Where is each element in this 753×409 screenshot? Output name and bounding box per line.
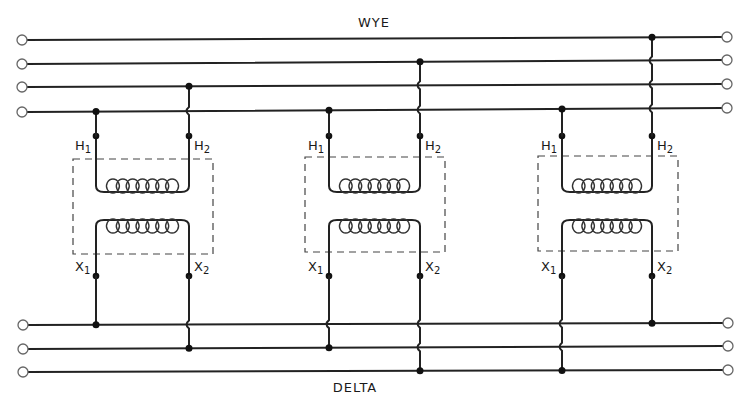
x1-label: X1 xyxy=(308,259,323,276)
h2-lead-junction-dot xyxy=(417,58,424,65)
transformer-1 xyxy=(73,83,213,352)
h2-lead xyxy=(418,62,421,136)
h2-lead-junction-dot xyxy=(186,83,193,90)
wye-line-3 xyxy=(17,79,732,92)
secondary-coil-icon xyxy=(340,219,410,233)
x1-label-letter: X xyxy=(308,259,317,274)
x1-label: X1 xyxy=(541,259,556,276)
x1-label-subscript: 1 xyxy=(550,265,556,276)
transformer-enclosure xyxy=(538,156,678,251)
secondary-winding-leads xyxy=(329,220,420,276)
x2-lead xyxy=(187,276,190,348)
x2-label: X2 xyxy=(425,259,440,276)
delta-line-2 xyxy=(18,341,733,354)
h1-label-subscript: 1 xyxy=(85,144,91,155)
transformer-2 xyxy=(305,58,445,374)
transformer-enclosure xyxy=(305,157,445,252)
h1-label-subscript: 1 xyxy=(318,144,324,155)
transformer-enclosure xyxy=(73,159,213,254)
h2-label-subscript: 2 xyxy=(667,144,673,155)
primary-winding-leads xyxy=(96,136,189,192)
wye-line-2 xyxy=(17,55,732,69)
primary-coil-icon xyxy=(573,179,642,193)
x1-label: X1 xyxy=(75,259,90,276)
primary-winding-leads xyxy=(329,136,420,192)
wye-delta-transformer-diagram xyxy=(0,0,753,409)
wye-conductor xyxy=(27,37,722,40)
delta-terminal-right[interactable] xyxy=(723,365,733,375)
h2-label-letter: H xyxy=(657,138,667,153)
primary-coil-icon xyxy=(107,179,179,193)
wye-terminal-right[interactable] xyxy=(722,32,732,42)
h2-lead xyxy=(650,37,653,136)
h1-label-letter: H xyxy=(75,138,85,153)
h1-label: H1 xyxy=(308,138,324,155)
x1-lead xyxy=(327,276,330,348)
h1-label-subscript: 1 xyxy=(551,144,557,155)
h2-label: H2 xyxy=(657,138,673,155)
delta-line-3 xyxy=(18,365,733,377)
delta-terminal-right[interactable] xyxy=(723,341,733,351)
h1-label-letter: H xyxy=(541,138,551,153)
x2-label-letter: X xyxy=(657,259,666,274)
secondary-winding-leads xyxy=(96,220,189,276)
wye-conductor xyxy=(27,84,722,87)
delta-terminal-left[interactable] xyxy=(18,367,28,377)
delta-conductor xyxy=(28,346,723,349)
h1-label: H1 xyxy=(75,138,91,155)
secondary-coil-icon xyxy=(573,219,642,233)
x2-label-subscript: 2 xyxy=(203,265,209,276)
x1-label-subscript: 1 xyxy=(317,265,323,276)
secondary-winding-leads xyxy=(562,220,652,276)
x2-label: X2 xyxy=(194,259,209,276)
x1-label-letter: X xyxy=(541,259,550,274)
h1-lead-junction-dot xyxy=(559,105,566,112)
x2-lead-junction-dot xyxy=(417,367,424,374)
h2-label: H2 xyxy=(194,138,210,155)
x2-label-letter: X xyxy=(425,259,434,274)
delta-bus xyxy=(18,318,733,377)
wye-terminal-right[interactable] xyxy=(722,55,732,65)
wye-terminal-left[interactable] xyxy=(17,107,27,117)
wye-terminal-right[interactable] xyxy=(722,79,732,89)
delta-line-1 xyxy=(18,318,733,330)
x2-label-subscript: 2 xyxy=(666,265,672,276)
h1-lead-junction-dot xyxy=(93,108,100,115)
delta-terminal-right[interactable] xyxy=(723,318,733,328)
wye-bus xyxy=(17,32,732,117)
wye-terminal-left[interactable] xyxy=(17,59,27,69)
x2-label-letter: X xyxy=(194,259,203,274)
wye-line-4 xyxy=(17,103,732,117)
x1-label-subscript: 1 xyxy=(84,265,90,276)
wye-terminal-left[interactable] xyxy=(17,35,27,45)
x2-lead-junction-dot xyxy=(649,320,656,327)
x1-lead-junction-dot xyxy=(559,367,566,374)
wye-conductor xyxy=(27,60,722,64)
h1-label-letter: H xyxy=(308,138,318,153)
delta-conductor xyxy=(28,323,723,325)
delta-terminal-left[interactable] xyxy=(18,344,28,354)
delta-terminal-left[interactable] xyxy=(18,320,28,330)
delta-label: DELTA xyxy=(333,380,378,395)
wye-terminal-left[interactable] xyxy=(17,82,27,92)
wye-conductor xyxy=(27,108,722,112)
wye-terminal-right[interactable] xyxy=(722,103,732,113)
h1-lead-junction-dot xyxy=(326,107,333,114)
h2-label-subscript: 2 xyxy=(204,144,210,155)
wye-line-1 xyxy=(17,32,732,45)
secondary-coil-icon xyxy=(107,219,179,233)
wye-label: WYE xyxy=(358,15,390,30)
h2-label-letter: H xyxy=(194,138,204,153)
h2-label: H2 xyxy=(425,138,441,155)
h1-label: H1 xyxy=(541,138,557,155)
x1-label-letter: X xyxy=(75,259,84,274)
h2-label-letter: H xyxy=(425,138,435,153)
x1-lead-junction-dot xyxy=(326,344,333,351)
primary-winding-leads xyxy=(562,136,652,192)
delta-conductor xyxy=(28,370,723,372)
x2-label: X2 xyxy=(657,259,672,276)
h2-lead-junction-dot xyxy=(649,34,656,41)
x2-lead-junction-dot xyxy=(186,345,193,352)
x1-lead-junction-dot xyxy=(93,321,100,328)
x2-label-subscript: 2 xyxy=(434,265,440,276)
